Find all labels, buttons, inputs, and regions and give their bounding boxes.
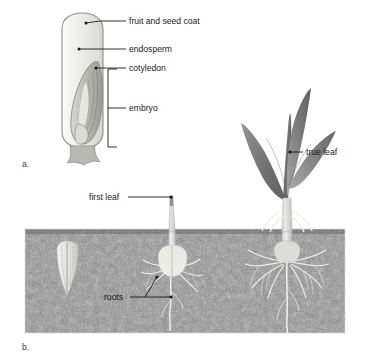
panel-a-marker: a. (22, 159, 29, 169)
panel-b-marker: b. (22, 342, 29, 352)
label-first-leaf: first leaf (89, 192, 120, 202)
label-cotyledon: cotyledon (129, 63, 166, 73)
panel-a-seed-diagram: fruit and seed coat endosperm cotyledon … (22, 13, 200, 169)
label-roots: roots (104, 292, 123, 302)
label-fruit-and-seed-coat: fruit and seed coat (129, 16, 200, 26)
label-endosperm: endosperm (129, 44, 172, 54)
seed-base-tip (67, 146, 100, 165)
label-true-leaf: true leaf (306, 147, 338, 157)
seed-germination-figure: fruit and seed coat endosperm cotyledon … (0, 0, 370, 352)
label-embryo: embryo (129, 103, 158, 113)
